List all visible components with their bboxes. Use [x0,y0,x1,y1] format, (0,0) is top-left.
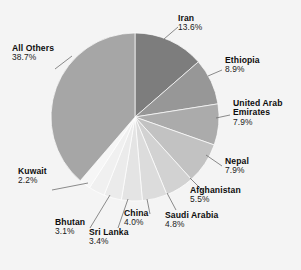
leader-line-ethiopia [208,70,222,76]
slice-label-uae-percent: 7.9% [233,118,282,127]
slice-label-afghanistan: Afghanistan 5.5% [190,186,241,204]
slice-label-saudi-arabia-percent: 4.8% [165,220,218,229]
slice-label-united-arab-emirates: United Arab Emirates 7.9% [233,99,282,127]
slice-label-ethiopia-percent: 8.9% [225,65,260,74]
slice-label-all-others: All Others 38.7% [12,44,54,62]
slice-label-iran: Iran 13.6% [178,14,202,32]
leader-line-bhutan [90,195,110,228]
leader-line-saudi-arabia [167,193,176,210]
slice-label-sri-lanka: Sri Lanka 3.4% [89,228,129,246]
slice-label-nepal: Nepal 7.9% [225,157,249,175]
leader-line-nepal [206,155,222,166]
leader-line-kuwait [52,183,88,190]
slice-label-iran-percent: 13.6% [178,23,202,32]
slice-label-kuwait-percent: 2.2% [18,176,47,185]
slice-label-china: China 4.0% [124,209,148,227]
slice-label-ethiopia: Ethiopia 8.9% [225,56,260,74]
slice-label-bhutan: Bhutan 3.1% [55,218,85,236]
pie-chart-canvas [0,0,301,270]
slice-label-afghanistan-percent: 5.5% [190,195,241,204]
slice-label-china-percent: 4.0% [124,218,148,227]
slice-label-saudi-arabia: Saudi Arabia 4.8% [165,211,218,229]
leader-line-iran [164,27,178,39]
slice-label-bhutan-percent: 3.1% [55,227,85,236]
slice-label-all-others-percent: 38.7% [12,53,54,62]
pie-chart: Iran 13.6% Ethiopia 8.9% United Arab Emi… [0,0,301,270]
slice-label-sri-lanka-percent: 3.4% [89,237,129,246]
slice-label-kuwait: Kuwait 2.2% [18,167,47,185]
slice-label-nepal-percent: 7.9% [225,166,249,175]
pie-slices-group [51,33,219,201]
